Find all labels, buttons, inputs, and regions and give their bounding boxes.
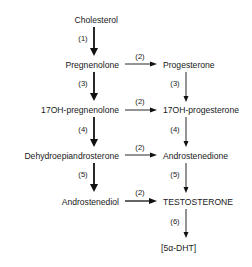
edge-label-4-right: (4) <box>170 126 179 134</box>
edge-label-2-row3: (2) <box>135 144 144 152</box>
arrow-17oh-progesterone-to-androstenedione <box>184 117 189 147</box>
node-cholesterol: Cholesterol <box>75 16 118 25</box>
arrow-androstenediol-to-testosterone <box>125 198 157 204</box>
arrow-17oh-pregnenolone-to-17oh-progesterone <box>125 108 157 113</box>
node-testosterone: TESTOSTERONE <box>163 198 233 207</box>
node-androstenediol: Androstenediol <box>62 198 119 207</box>
arrow-pregnenolone-to-17oh-pregnenolone <box>90 72 98 101</box>
node-progesterone: Progesterone <box>163 61 215 70</box>
arrow-androstenedione-to-testosterone <box>184 163 189 193</box>
edge-label-5-right: (5) <box>170 171 179 179</box>
arrow-dhea-to-androstenediol <box>90 163 98 192</box>
edge-label-1: (1) <box>78 35 87 43</box>
edge-label-5-left: (5) <box>78 171 87 179</box>
arrow-pregnenolone-to-progesterone <box>125 62 157 67</box>
node-17oh-pregnenolone: 17OH-pregnenolone <box>41 106 119 115</box>
node-17oh-progesterone: 17OH-progesterone <box>163 106 239 115</box>
arrows-layer <box>0 0 252 267</box>
edge-label-3-left: (3) <box>78 80 87 88</box>
edge-label-3-right: (3) <box>170 80 179 88</box>
node-dhea: Dehydroepiandrosterone <box>24 152 119 161</box>
node-pregnenolone: Pregnenolone <box>65 61 119 70</box>
node-5a-dht: [5α-DHT] <box>161 244 196 253</box>
arrow-testosterone-to-5a-dht <box>184 209 189 238</box>
edge-label-6: (6) <box>170 218 179 226</box>
node-androstenedione: Androstenedione <box>163 152 228 161</box>
arrow-17oh-pregnenolone-to-dhea <box>90 117 98 147</box>
arrow-progesterone-to-17oh-progesterone <box>184 72 189 102</box>
arrow-dhea-to-androstenedione <box>125 153 157 158</box>
edge-label-4-left: (4) <box>78 126 87 134</box>
edge-label-2-row4: (2) <box>135 189 144 197</box>
arrow-cholesterol-to-pregnenolone <box>90 27 98 56</box>
edge-label-2-row2: (2) <box>135 98 144 106</box>
edge-label-2-row1: (2) <box>135 53 144 61</box>
